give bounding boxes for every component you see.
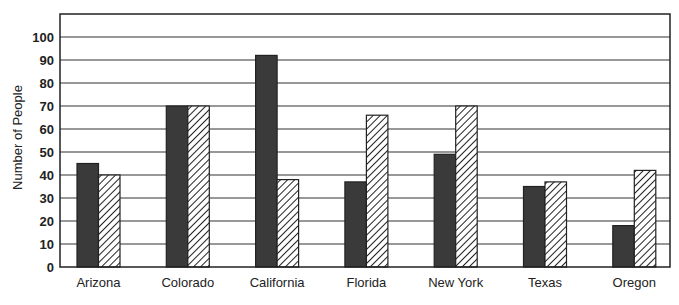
y-axis-ticks: 0102030405060708090100 — [32, 30, 54, 275]
bar-florida-s1 — [345, 182, 367, 267]
bar-oregon-s2 — [634, 170, 656, 267]
x-axis-labels: ArizonaColoradoCaliforniaFloridaNew York… — [76, 275, 656, 290]
bar-new-york-s2 — [456, 106, 478, 267]
bar-oregon-s1 — [613, 226, 635, 267]
y-tick-label: 30 — [40, 191, 54, 206]
x-tick-label: California — [250, 275, 306, 290]
bar-arizona-s1 — [77, 164, 99, 268]
x-tick-label: Colorado — [161, 275, 214, 290]
y-tick-label: 100 — [32, 30, 54, 45]
y-tick-label: 90 — [40, 53, 54, 68]
y-tick-label: 40 — [40, 168, 54, 183]
x-tick-label: Texas — [528, 275, 562, 290]
y-tick-label: 10 — [40, 237, 54, 252]
bar-colorado-s2 — [188, 106, 210, 267]
y-tick-label: 60 — [40, 122, 54, 137]
y-axis-label: Number of People — [10, 83, 25, 193]
bar-texas-s2 — [545, 182, 567, 267]
y-tick-label: 20 — [40, 214, 54, 229]
y-tick-label: 80 — [40, 76, 54, 91]
x-tick-label: Florida — [347, 275, 388, 290]
chart-canvas: 0102030405060708090100 ArizonaColoradoCa… — [0, 0, 679, 305]
bar-california-s1 — [256, 55, 278, 267]
bar-new-york-s1 — [434, 154, 456, 267]
bar-arizona-s2 — [99, 175, 121, 267]
x-tick-label: Arizona — [76, 275, 121, 290]
x-tick-label: New York — [428, 275, 483, 290]
x-tick-label: Oregon — [613, 275, 656, 290]
y-tick-label: 50 — [40, 145, 54, 160]
bar-california-s2 — [277, 180, 299, 267]
bars — [77, 55, 656, 267]
bar-colorado-s1 — [166, 106, 188, 267]
y-tick-label: 0 — [47, 260, 54, 275]
bar-florida-s2 — [366, 115, 388, 267]
bar-texas-s1 — [524, 187, 546, 268]
y-tick-label: 70 — [40, 99, 54, 114]
